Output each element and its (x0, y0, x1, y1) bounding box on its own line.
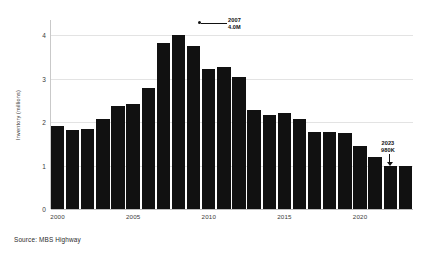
bar-2017 (308, 132, 321, 209)
bar-2001 (66, 130, 79, 209)
bar-2021 (368, 157, 381, 209)
bar-2004 (111, 106, 124, 209)
annotation-last-value: 980K (381, 147, 395, 154)
y-tick-label-2: 2 (6, 119, 46, 126)
x-axis: 20002005201020152020 (50, 210, 413, 226)
y-tick-label-3: 3 (6, 75, 46, 82)
bar-2000 (51, 126, 64, 209)
bar-2022 (384, 166, 397, 209)
bar-2006 (142, 88, 155, 209)
annotation-peak-leader-line (201, 23, 227, 24)
bar-2005 (126, 104, 139, 209)
bar-2002 (81, 129, 94, 209)
annotation-last-label: 2023 980K (381, 140, 395, 155)
bar-2008 (172, 35, 185, 209)
source-note: Source: MBS Highway (14, 236, 81, 243)
annotation-last-year: 2023 (381, 140, 395, 147)
bar-2003 (96, 119, 109, 209)
annotation-peak-year: 2007 (228, 17, 241, 24)
y-axis: Inventory (millions) 01234 (0, 20, 46, 209)
bar-2011 (217, 67, 230, 209)
bar-2016 (293, 119, 306, 209)
bar-2012 (232, 77, 245, 209)
x-tick-label-2015: 2015 (277, 213, 292, 220)
x-tick-label-2000: 2000 (50, 213, 65, 220)
bar-2015 (278, 113, 291, 209)
x-tick-label-2020: 2020 (353, 213, 368, 220)
bar-series (50, 20, 413, 209)
bar-2018 (323, 132, 336, 209)
annotation-last-arrow-head (387, 162, 393, 166)
bar-2020 (353, 146, 366, 209)
bar-2019 (338, 133, 351, 209)
bar-2009 (187, 46, 200, 209)
x-tick-label-2005: 2005 (126, 213, 141, 220)
bar-2014 (263, 115, 276, 209)
bar-2007 (157, 43, 170, 209)
x-tick-label-2010: 2010 (202, 213, 217, 220)
y-tick-label-0: 0 (6, 206, 46, 213)
annotation-peak-label: 2007 4.0M (228, 17, 241, 32)
y-tick-label-4: 4 (6, 32, 46, 39)
bar-2010 (202, 69, 215, 209)
bar-2023 (399, 166, 412, 209)
bar-2013 (247, 110, 260, 209)
annotation-peak-value: 4.0M (228, 24, 241, 31)
y-tick-label-1: 1 (6, 162, 46, 169)
chart-figure: Inventory (millions) 01234 2000200520102… (0, 0, 423, 256)
plot-area (50, 20, 413, 209)
